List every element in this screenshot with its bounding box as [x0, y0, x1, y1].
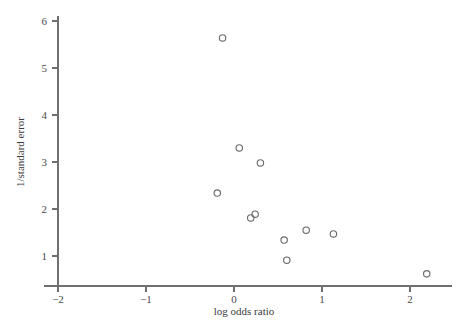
y-axis-ticks: 123456 [42, 15, 59, 262]
y-tick-label: 5 [42, 62, 48, 74]
data-point [281, 237, 287, 243]
data-point [284, 257, 290, 263]
x-tick-label: −2 [52, 293, 64, 305]
y-tick-label: 2 [42, 203, 48, 215]
x-axis-ticks: −2−1012 [52, 286, 413, 305]
data-point [214, 190, 220, 196]
y-tick-label: 1 [42, 250, 48, 262]
x-tick-label: 0 [231, 293, 237, 305]
data-point [303, 227, 309, 233]
y-axis-group: 123456 1/standard error [14, 15, 58, 286]
y-axis-title: 1/standard error [14, 117, 26, 187]
data-point [424, 271, 430, 277]
data-point [257, 160, 263, 166]
x-tick-label: 2 [407, 293, 413, 305]
data-point [219, 35, 225, 41]
data-point [248, 215, 254, 221]
scatter-plot-canvas: 123456 1/standard error −2−1012 log odds… [0, 0, 457, 325]
y-tick-label: 6 [42, 15, 48, 27]
x-tick-label: −1 [140, 293, 152, 305]
data-point-series [214, 35, 430, 277]
y-tick-label: 4 [42, 109, 48, 121]
x-tick-label: 1 [319, 293, 325, 305]
y-tick-label: 3 [42, 156, 48, 168]
x-axis-title: log odds ratio [214, 305, 275, 317]
data-point [330, 231, 336, 237]
data-point [236, 145, 242, 151]
funnel-plot-figure: 123456 1/standard error −2−1012 log odds… [0, 0, 457, 325]
x-axis-group: −2−1012 log odds ratio [44, 286, 452, 317]
